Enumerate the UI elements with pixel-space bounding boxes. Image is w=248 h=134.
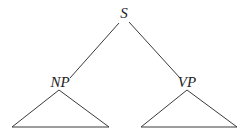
edge-s-vp xyxy=(129,22,180,78)
vp-subtree-triangle xyxy=(141,90,237,127)
node-vp-label: VP xyxy=(178,74,196,90)
node-s-label: S xyxy=(120,5,128,21)
np-subtree-triangle xyxy=(12,90,109,127)
edge-s-np xyxy=(70,23,119,78)
node-np-label: NP xyxy=(49,74,69,90)
syntax-tree-diagram: S NP VP xyxy=(0,0,248,134)
